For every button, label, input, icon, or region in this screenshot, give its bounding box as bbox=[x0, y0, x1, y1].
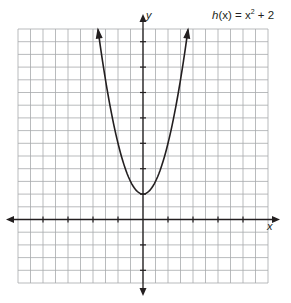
function-arg: (x) bbox=[218, 9, 231, 21]
function-constant: + 2 bbox=[255, 9, 275, 21]
y-axis-label: y bbox=[146, 9, 152, 21]
x-axis-label: x bbox=[267, 220, 273, 232]
axes bbox=[10, 17, 276, 292]
function-body: = x bbox=[232, 9, 251, 21]
coordinate-plane bbox=[0, 0, 291, 303]
function-label: h(x) = x2 + 2 bbox=[212, 8, 274, 21]
